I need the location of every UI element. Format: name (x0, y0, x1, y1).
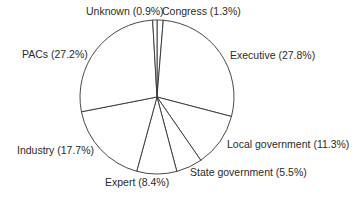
label-expert: Expert (8.4%) (105, 176, 169, 188)
slice-pacs (80, 20, 157, 112)
label-pacs: PACs (27.2%) (22, 48, 88, 60)
label-local-government: Local government (11.3%) (227, 138, 349, 150)
label-executive: Executive (27.8%) (230, 49, 315, 61)
label-industry: Industry (17.7%) (17, 144, 94, 156)
label-congress: Congress (1.3%) (162, 5, 241, 17)
label-unknown: Unknown (0.9%) (86, 5, 164, 17)
label-state-government: State government (5.5%) (190, 166, 307, 178)
pie-slices (80, 20, 234, 174)
